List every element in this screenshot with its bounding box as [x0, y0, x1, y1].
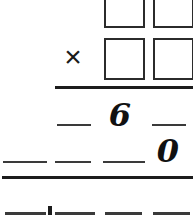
- second-partial-blank-3[interactable]: [103, 161, 145, 163]
- answer-box-multiplicand-tens[interactable]: [104, 0, 145, 28]
- second-partial-digit-0: 0: [152, 135, 184, 167]
- partial-product-digit-6: 6: [103, 99, 137, 131]
- decimal-point-mark: [48, 206, 52, 215]
- sum-rule: [2, 176, 193, 179]
- answer-box-multiplicand-ones[interactable]: [153, 0, 193, 28]
- total-blank-2[interactable]: [55, 212, 95, 215]
- partial-product-blank-2[interactable]: [152, 124, 186, 126]
- multiplication-sign: ×: [58, 42, 88, 72]
- total-blank-4[interactable]: [153, 212, 190, 215]
- answer-box-multiplier-ones[interactable]: [153, 38, 193, 80]
- product-rule: [55, 86, 193, 89]
- total-blank-1[interactable]: [5, 212, 46, 215]
- total-blank-3[interactable]: [105, 212, 142, 215]
- answer-box-multiplier-tens[interactable]: [104, 38, 145, 80]
- multiplication-worksheet: × 6 0: [0, 0, 193, 221]
- second-partial-blank-1[interactable]: [3, 161, 47, 163]
- second-partial-blank-2[interactable]: [55, 161, 91, 163]
- partial-product-blank-1[interactable]: [57, 124, 91, 126]
